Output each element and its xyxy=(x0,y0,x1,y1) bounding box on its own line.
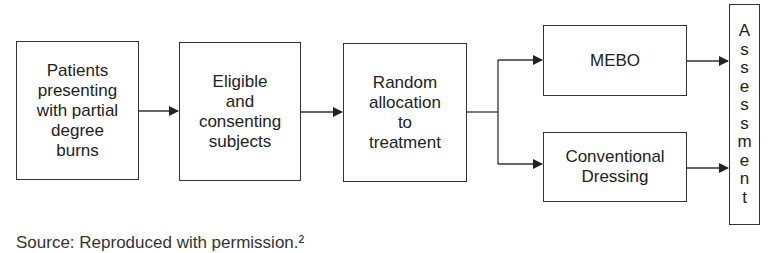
assessment-letter: n xyxy=(740,170,749,189)
assessment-letter: e xyxy=(740,152,749,171)
node-label: Patients presenting with partial degree … xyxy=(37,61,118,161)
assessment-letter: m xyxy=(737,133,751,152)
figure-caption: Source: Reproduced with permission.² xyxy=(16,233,304,253)
node-random-allocation: Random allocation to treatment xyxy=(343,43,467,182)
node-conventional-dressing: Conventional Dressing xyxy=(543,132,687,202)
node-label: Conventional Dressing xyxy=(565,147,664,187)
node-label: Eligible and consenting subjects xyxy=(199,72,281,152)
assessment-letter: s xyxy=(740,59,749,78)
node-assessment: A s s e s s m e n t xyxy=(729,4,760,225)
node-mebo: MEBO xyxy=(543,25,687,96)
node-patients: Patients presenting with partial degree … xyxy=(16,41,139,180)
assessment-letter: e xyxy=(740,78,749,97)
assessment-letter: t xyxy=(742,189,747,208)
node-eligible: Eligible and consenting subjects xyxy=(179,42,301,181)
assessment-letter: A xyxy=(739,22,750,41)
node-label: MEBO xyxy=(590,51,640,71)
node-label: Random allocation to treatment xyxy=(369,73,441,153)
assessment-letter: s xyxy=(740,96,749,115)
assessment-letter: s xyxy=(740,115,749,134)
assessment-letter: s xyxy=(740,41,749,60)
